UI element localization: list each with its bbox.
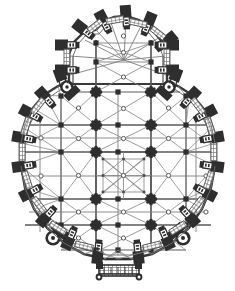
crossing-vault [96,152,151,199]
cathedral-plan-drawing [0,0,235,291]
plan-background [0,0,235,291]
floor-plan-figure: Gothic cathedral ground plan centralized… [0,0,235,291]
